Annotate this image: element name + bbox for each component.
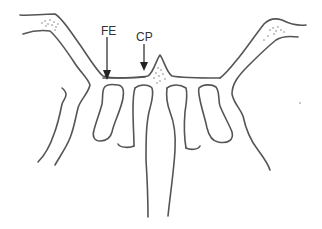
stipple-central-peak: [153, 67, 165, 83]
stray-mark: [299, 102, 300, 103]
stipple-right-arm: [263, 26, 284, 40]
chamber-3-base: [186, 146, 200, 149]
diagram-canvas: [0, 0, 322, 229]
label-fe: FE: [101, 25, 116, 37]
right-arm-top-edge: [220, 19, 306, 78]
chamber-2-left-wall: [133, 88, 135, 146]
left-arm-bottom-edge: [23, 31, 90, 165]
chamber-2: [135, 85, 153, 217]
left-arm-top-edge: [20, 14, 145, 78]
chamber-3: [167, 85, 187, 148]
cp-arrow: [140, 44, 148, 71]
chamber-1: [93, 84, 123, 141]
right-arm-bottom-edge: [232, 36, 298, 170]
chamber-4: [199, 85, 233, 143]
chamber-3-stem-wall: [167, 88, 176, 216]
central-peak: [103, 55, 220, 78]
stipple-left-arm: [41, 19, 58, 30]
chamber-2-base: [118, 144, 134, 147]
fe-arrow: [103, 37, 111, 80]
label-cp: CP: [136, 31, 153, 43]
left-outer-wall: [38, 88, 66, 162]
